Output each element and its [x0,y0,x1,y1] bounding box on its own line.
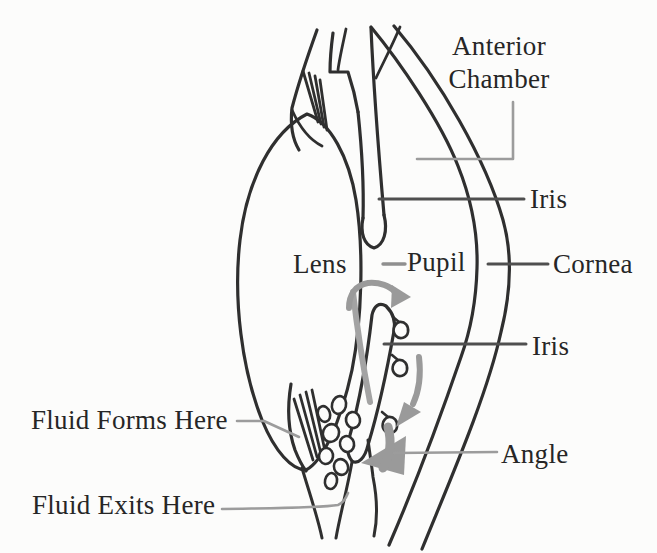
droplet [393,317,408,338]
label-fluid-forms: Fluid Forms Here [31,404,228,437]
droplet [392,355,407,376]
label-pupil: Pupil [407,246,466,279]
eye-anatomy-diagram: Anterior Chamber Iris Lens Pupil Cornea … [0,0,657,553]
label-lens: Lens [293,248,347,281]
label-iris-lower: Iris [532,330,569,363]
flow-arrow-chamber-head [396,402,421,427]
sclera-strand [302,468,322,538]
ciliary-blob [323,472,338,490]
ciliary-blob [318,447,334,465]
ciliary-blob [330,395,348,416]
ciliary-upper-strand [338,29,346,70]
label-iris-upper: Iris [530,183,567,216]
iris-upper-bulb [362,215,386,248]
label-fluid-exits: Fluid Exits Here [32,489,215,522]
leader-fluid-exits [222,493,348,509]
ciliary-body-upper [291,29,358,150]
leader-angle [394,452,497,453]
flow-arrow-chamber-body [413,357,420,404]
iris-upper-left-edge [358,112,363,218]
label-cornea: Cornea [553,248,633,281]
ciliary-blob [345,411,362,429]
cornea-top-strand [376,27,400,78]
trabecular-line [368,440,377,536]
flow-arrow-pupil-head [391,285,411,308]
cornea-outer-curve [394,26,509,549]
iris-upper-shape [358,28,386,248]
label-anterior-chamber: Anterior Chamber [420,30,578,96]
iris-upper-right-edge [371,28,384,215]
label-angle: Angle [501,438,568,471]
angle-shading [383,427,390,468]
ciliary-blob [338,435,355,454]
